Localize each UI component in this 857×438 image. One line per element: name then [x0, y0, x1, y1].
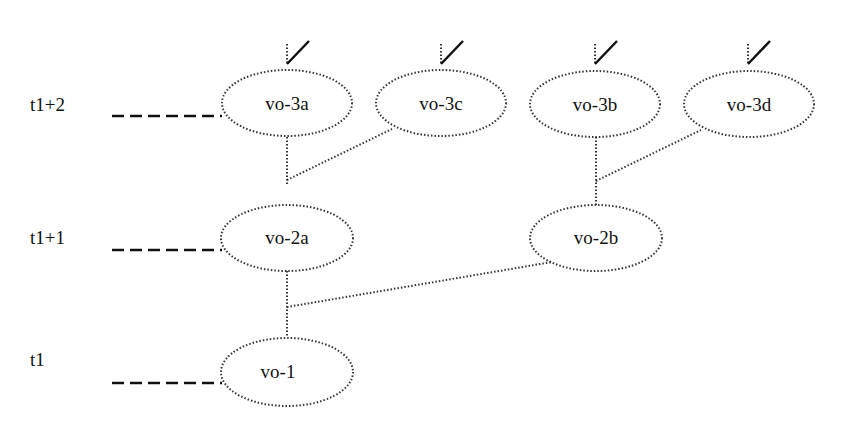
node-vo-3d: vo-3d	[684, 71, 814, 137]
svg-text:vo-2b: vo-2b	[574, 227, 618, 248]
node-vo-1: vo-1	[221, 338, 353, 406]
check-icon	[748, 41, 770, 64]
level-label-t1-plus-2: t1+2	[30, 94, 65, 115]
svg-text:vo-3d: vo-3d	[727, 94, 772, 115]
node-vo-3b: vo-3b	[530, 71, 660, 137]
svg-text:vo-1: vo-1	[261, 361, 296, 382]
node-vo-3c: vo-3c	[376, 70, 506, 136]
level-label-t1-plus-1: t1+1	[30, 227, 65, 248]
edge-vo-2b-vo-1	[287, 262, 552, 307]
svg-text:vo-3c: vo-3c	[419, 93, 462, 114]
node-vo-2a: vo-2a	[221, 205, 353, 271]
edge-vo-3d-vo-2b	[596, 130, 701, 181]
version-tree-diagram: t1+2 t1+1 t1 vo-3a vo-3c vo-3b v	[0, 0, 857, 438]
node-vo-3a: vo-3a	[222, 70, 352, 136]
svg-text:vo-3a: vo-3a	[265, 93, 309, 114]
check-icon	[441, 41, 463, 64]
check-icon	[595, 41, 617, 64]
svg-text:vo-3b: vo-3b	[573, 94, 617, 115]
node-vo-2b: vo-2b	[530, 205, 662, 271]
level-label-t1: t1	[30, 349, 45, 370]
svg-text:vo-2a: vo-2a	[265, 227, 309, 248]
edge-vo-3c-vo-2a	[287, 129, 392, 180]
check-icon	[287, 41, 309, 64]
